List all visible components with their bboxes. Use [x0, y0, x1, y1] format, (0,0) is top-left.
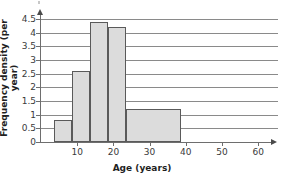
y-tick-label-4: 4 [30, 29, 36, 38]
x-tick-10 [77, 142, 78, 146]
x-tick-label-30: 30 [140, 148, 160, 157]
y-tick-4.5 [36, 19, 41, 20]
y-tick-label-2.5: 2.5 [22, 70, 36, 79]
image-artifact-speck [38, 1, 40, 4]
y-axis-arrow-icon [37, 9, 43, 15]
gridline-4.5 [41, 19, 278, 20]
y-tick-label-1: 1 [30, 111, 36, 120]
y-tick-2.5 [36, 74, 41, 75]
gridline-3.5 [41, 46, 278, 47]
y-tick-1 [36, 115, 41, 116]
bar-30-35 [108, 27, 126, 142]
y-tick-3 [36, 60, 41, 61]
x-tick-60 [258, 142, 259, 146]
x-tick-50 [222, 142, 223, 146]
y-tick-0 [36, 142, 41, 143]
y-tick-3.5 [36, 46, 41, 47]
gridline-3 [41, 60, 278, 61]
bar-25-30 [90, 22, 108, 142]
y-tick-4 [36, 33, 41, 34]
y-tick-1.5 [36, 101, 41, 102]
y-tick-label-3: 3 [30, 56, 36, 65]
y-tick-label-0.5: 0.5 [22, 124, 36, 133]
y-tick-label-3.5: 3.5 [22, 42, 36, 51]
x-tick-label-20: 20 [103, 148, 123, 157]
histogram-chart: 4.5 4 3.5 3 2.5 2 1.5 1 0.5 0 10 20 30 4… [0, 0, 284, 177]
bar-20-25 [72, 71, 90, 142]
gridline-4 [41, 33, 278, 34]
y-tick-label-4.5: 4.5 [22, 15, 36, 24]
plot-area [41, 19, 278, 142]
y-axis-title: Frequency density (per year) [0, 13, 19, 143]
x-tick-40 [186, 142, 187, 146]
bar-35-50 [126, 109, 180, 142]
x-axis-title: Age (years) [0, 163, 284, 173]
y-tick-2 [36, 87, 41, 88]
y-tick-0.5 [36, 128, 41, 129]
x-tick-label-40: 40 [176, 148, 196, 157]
bar-15-20 [54, 120, 72, 142]
x-tick-20 [113, 142, 114, 146]
y-tick-label-1.5: 1.5 [22, 97, 36, 106]
x-tick-label-50: 50 [212, 148, 232, 157]
x-tick-label-10: 10 [67, 148, 87, 157]
x-axis-line [41, 142, 273, 143]
y-tick-label-2: 2 [30, 83, 36, 92]
x-tick-30 [150, 142, 151, 146]
x-tick-label-60: 60 [248, 148, 268, 157]
y-tick-label-0: 0 [30, 138, 36, 147]
x-axis-arrow-icon [271, 139, 277, 145]
